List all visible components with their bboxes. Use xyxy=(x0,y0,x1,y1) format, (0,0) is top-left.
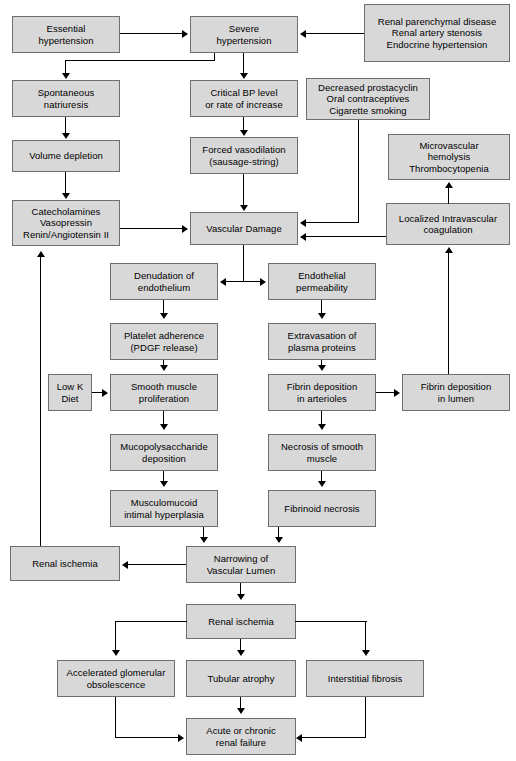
node-volume-depletion[interactable]: Volume depletion xyxy=(12,140,120,172)
edge-vasculardamage-split-left xyxy=(226,281,244,282)
arrowhead-volume-depletion xyxy=(62,133,70,139)
node-line: Localized Intravascular xyxy=(389,213,507,225)
node-musculomucoid-intimal-hyperplasia[interactable]: Musculomucoid intimal hyperplasia xyxy=(110,490,218,527)
edge-interstitial-to-failure-v xyxy=(365,697,366,738)
node-essential-hypertension[interactable]: Essential hypertension xyxy=(12,16,120,53)
node-severe-hypertension[interactable]: Severe hypertension xyxy=(190,16,298,53)
edge-fibrinlumen-to-coagulation xyxy=(448,252,449,374)
node-line: proliferation xyxy=(113,393,215,405)
node-line: Renal ischemia xyxy=(189,616,293,628)
node-line: natriuresis xyxy=(15,99,117,111)
arrowhead-smooth-muscle xyxy=(160,365,168,371)
edge-fibrinarterioles-to-fibrinlumen xyxy=(376,392,396,393)
node-narrowing-vascular-lumen[interactable]: Narrowing of Vascular Lumen xyxy=(186,546,296,583)
node-line: Microvascular xyxy=(391,140,507,152)
edge-interstitial-to-failure-h xyxy=(302,737,366,738)
node-line: permeability xyxy=(271,282,373,294)
node-line: Low K xyxy=(51,381,89,393)
arrowhead-renal-failure-right xyxy=(296,734,302,742)
arrowhead-vascular-damage-right-upper xyxy=(300,219,306,227)
node-critical-bp-level[interactable]: Critical BP level or rate of increase xyxy=(190,80,298,117)
node-denudation-endothelium[interactable]: Denudation of endothelium xyxy=(110,263,218,300)
node-spontaneous-natriuresis[interactable]: Spontaneous natriuresis xyxy=(12,80,120,117)
node-line: Fibrin deposition xyxy=(271,381,373,393)
node-forced-vasodilation[interactable]: Forced vasodilation (sausage-string) xyxy=(190,137,298,174)
node-low-k-diet[interactable]: Low K Diet xyxy=(48,374,92,411)
node-line: Tubular atrophy xyxy=(189,673,293,685)
node-line: Endocrine hypertension xyxy=(367,39,507,51)
node-fibrin-deposition-lumen[interactable]: Fibrin deposition in lumen xyxy=(402,374,510,411)
node-catecholamines[interactable]: Catecholamines Vasopressin Renin/Angiote… xyxy=(12,200,120,246)
node-line: Forced vasodilation xyxy=(193,144,295,156)
node-smooth-muscle-proliferation[interactable]: Smooth muscle proliferation xyxy=(110,374,218,411)
arrowhead-microvascular-hemolysis xyxy=(445,182,453,188)
arrowhead-forced-vasodilation xyxy=(240,130,248,136)
arrowhead-catecholamines-bottom xyxy=(37,251,45,257)
node-line: Musculomucoid xyxy=(113,497,215,509)
arrowhead-tubular-atrophy xyxy=(237,650,245,656)
edge-renalischemia-branch-left-h xyxy=(115,621,187,622)
node-line: Oral contraceptives xyxy=(309,93,427,105)
edge-coagulation-to-hemolysis xyxy=(448,187,449,204)
arrowhead-natriuresis xyxy=(62,73,70,79)
node-renal-causes[interactable]: Renal parenchymal disease Renal artery s… xyxy=(364,4,510,62)
node-extravasation-plasma-proteins[interactable]: Extravasation of plasma proteins xyxy=(268,323,376,360)
node-line: Thrombocytopenia xyxy=(391,163,507,175)
node-line: Interstitial fibrosis xyxy=(309,673,421,685)
node-line: Acute or chronic xyxy=(189,725,293,737)
node-fibrinoid-necrosis[interactable]: Fibrinoid necrosis xyxy=(268,490,376,527)
node-interstitial-fibrosis[interactable]: Interstitial fibrosis xyxy=(306,660,424,697)
arrowhead-necrosis-smooth-muscle xyxy=(318,424,326,430)
edge-essential-to-severe xyxy=(120,33,182,34)
arrowhead-renal-ischemia-left xyxy=(122,561,128,569)
node-platelet-adherence[interactable]: Platelet adherence (PDGF release) xyxy=(110,323,218,360)
node-localized-intravascular-coagulation[interactable]: Localized Intravascular coagulation xyxy=(386,203,510,245)
edge-prostacyclin-h xyxy=(306,222,359,223)
node-tubular-atrophy[interactable]: Tubular atrophy xyxy=(186,660,296,697)
node-line: Endothelial xyxy=(271,270,373,282)
edge-glomerular-to-failure-v xyxy=(115,697,116,738)
node-renal-ischemia-left[interactable]: Renal ischemia xyxy=(10,546,120,581)
node-renal-ischemia-center[interactable]: Renal ischemia xyxy=(186,604,296,639)
node-line: Renal parenchymal disease xyxy=(367,16,507,28)
edge-severe-to-natriuresis-h xyxy=(65,60,215,61)
node-line: Essential xyxy=(15,23,117,35)
arrowhead-denudation xyxy=(220,278,226,286)
node-line: or rate of increase xyxy=(193,99,295,111)
node-line: intimal hyperplasia xyxy=(113,509,215,521)
node-line: Vascular Lumen xyxy=(189,565,293,577)
node-line: Denudation of xyxy=(113,270,215,282)
node-line: Narrowing of xyxy=(189,553,293,565)
edge-narrowing-to-renalischemia-left xyxy=(128,564,186,565)
node-vascular-damage[interactable]: Vascular Damage xyxy=(190,212,298,245)
arrowhead-coagulation-bottom xyxy=(445,247,453,253)
arrowhead-vascular-damage-right-lower xyxy=(300,233,306,241)
edge-severe-to-criticalbp xyxy=(243,53,244,74)
arrowhead-fibrinoid-necrosis xyxy=(318,481,326,487)
arrowhead-criticalbp xyxy=(240,73,248,79)
node-decreased-prostacyclin[interactable]: Decreased prostacyclin Oral contraceptiv… xyxy=(306,78,430,120)
node-microvascular-hemolysis[interactable]: Microvascular hemolysis Thrombocytopenia xyxy=(388,134,510,180)
arrowhead-interstitial-fibrosis xyxy=(362,650,370,656)
node-line: Accelerated glomerular xyxy=(60,667,172,679)
arrowhead-vascular-damage-top xyxy=(240,205,248,211)
arrowhead-extravasation xyxy=(318,313,326,319)
arrowhead-musculomucoid xyxy=(160,481,168,487)
node-accelerated-glomerular-obsolescence[interactable]: Accelerated glomerular obsolescence xyxy=(57,660,175,697)
arrowhead-renal-ischemia-center xyxy=(237,594,245,600)
edge-renalischemia-branch-right-v xyxy=(365,621,366,652)
node-line: (sausage-string) xyxy=(193,156,295,168)
node-line: coagulation xyxy=(389,224,507,236)
node-line: hypertension xyxy=(193,35,295,47)
node-line: Vasopressin xyxy=(15,217,117,229)
node-line: in lumen xyxy=(405,393,507,405)
edge-renalischemia-to-catecholamines xyxy=(40,256,41,546)
node-acute-or-chronic-renal-failure[interactable]: Acute or chronic renal failure xyxy=(186,718,296,755)
node-necrosis-smooth-muscle[interactable]: Necrosis of smooth muscle xyxy=(268,434,376,471)
node-line: muscle xyxy=(271,453,373,465)
arrowhead-catecholamines xyxy=(62,193,70,199)
node-endothelial-permeability[interactable]: Endothelial permeability xyxy=(268,263,376,300)
node-mucopolysaccharide-deposition[interactable]: Mucopolysaccharide deposition xyxy=(110,434,218,471)
node-line: endothelium xyxy=(113,282,215,294)
node-fibrin-deposition-arterioles[interactable]: Fibrin deposition in arterioles xyxy=(268,374,376,411)
